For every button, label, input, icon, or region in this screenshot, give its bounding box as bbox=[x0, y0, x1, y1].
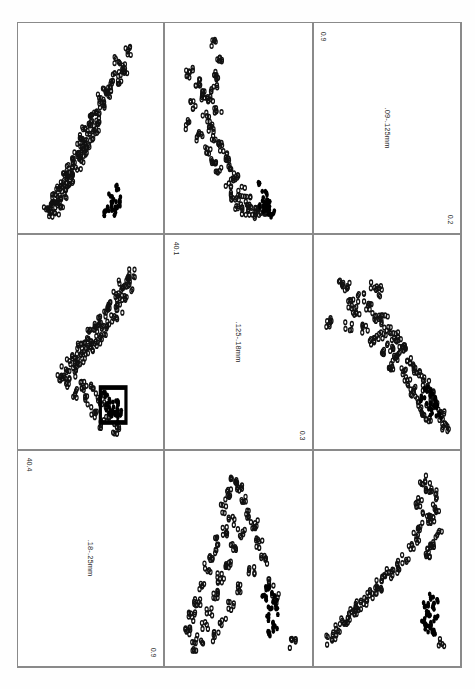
data-point-open bbox=[60, 189, 63, 193]
data-point-open bbox=[50, 214, 53, 218]
data-point-open bbox=[67, 375, 70, 380]
data-point-filled bbox=[261, 203, 265, 208]
data-point-open bbox=[396, 330, 399, 335]
data-point-filled bbox=[256, 179, 260, 184]
data-point-filled bbox=[266, 611, 270, 616]
data-point-open bbox=[221, 525, 224, 530]
panel-r1c0 bbox=[17, 234, 165, 451]
data-point-open bbox=[127, 267, 130, 272]
data-point-open bbox=[109, 88, 112, 92]
data-point-open bbox=[216, 571, 219, 576]
data-point-open bbox=[57, 212, 60, 216]
scatter-layer bbox=[165, 23, 313, 234]
data-point-filled bbox=[428, 612, 432, 617]
data-point-open bbox=[409, 387, 412, 392]
panel-diag-v3: 0.9.09-.125mm0.2 bbox=[313, 22, 462, 235]
data-point-open bbox=[109, 313, 112, 318]
data-point-open bbox=[205, 607, 208, 612]
data-point-open bbox=[360, 330, 363, 335]
data-point-filled bbox=[271, 619, 275, 624]
data-point-filled bbox=[428, 393, 432, 398]
data-point-open bbox=[243, 185, 246, 189]
data-point-open bbox=[96, 92, 99, 96]
data-point-open bbox=[409, 546, 412, 551]
data-point-filled bbox=[264, 597, 268, 602]
axis-min-label: 0.9 bbox=[151, 648, 158, 658]
data-point-open bbox=[86, 402, 89, 407]
data-point-open bbox=[387, 569, 390, 574]
data-point-open bbox=[56, 372, 59, 377]
data-point-open bbox=[420, 373, 423, 378]
data-point-filled bbox=[264, 587, 268, 592]
data-point-open bbox=[219, 109, 222, 113]
data-point-open bbox=[191, 106, 194, 110]
data-point-open bbox=[120, 310, 123, 315]
data-point-open bbox=[194, 83, 197, 87]
data-point-filled bbox=[428, 619, 432, 624]
data-point-filled bbox=[430, 604, 434, 609]
data-point-open bbox=[94, 333, 97, 338]
data-point-open bbox=[390, 337, 393, 342]
data-point-open bbox=[352, 612, 355, 617]
data-point-filled bbox=[436, 599, 440, 604]
data-point-open bbox=[403, 378, 406, 383]
data-point-open bbox=[205, 119, 208, 123]
data-point-open bbox=[412, 530, 415, 535]
data-point-filled bbox=[115, 397, 119, 402]
data-point-open bbox=[400, 366, 403, 371]
data-point-filled bbox=[266, 629, 270, 634]
data-point-open bbox=[79, 166, 82, 170]
axis-min-label: 0.3 bbox=[300, 431, 307, 441]
axis-min-label: 0.2 bbox=[448, 215, 455, 225]
data-point-open bbox=[431, 515, 434, 520]
data-point-open bbox=[59, 180, 62, 184]
data-point-open bbox=[195, 138, 198, 142]
data-point-open bbox=[97, 115, 100, 119]
data-point-open bbox=[356, 299, 359, 304]
axis-max-label: 40.1 bbox=[173, 241, 180, 255]
data-point-filled bbox=[424, 611, 428, 616]
data-point-open bbox=[209, 606, 212, 611]
data-point-open bbox=[364, 602, 367, 607]
data-point-open bbox=[400, 552, 403, 557]
data-point-filled bbox=[422, 395, 426, 400]
data-point-open bbox=[390, 573, 393, 578]
data-point-open bbox=[225, 151, 228, 155]
data-point-open bbox=[65, 384, 68, 389]
data-point-filled bbox=[434, 404, 438, 409]
data-point-open bbox=[65, 357, 68, 362]
data-point-filled bbox=[439, 415, 443, 420]
data-point-open bbox=[220, 618, 223, 623]
data-point-open bbox=[84, 383, 87, 388]
data-point-open bbox=[214, 547, 217, 552]
data-point-filled bbox=[117, 197, 121, 202]
data-point-filled bbox=[426, 629, 430, 634]
data-point-open bbox=[215, 595, 218, 600]
data-point-open bbox=[198, 597, 201, 602]
data-point-open bbox=[347, 280, 350, 285]
data-point-open bbox=[79, 158, 82, 162]
data-point-filled bbox=[113, 412, 117, 417]
data-point-open bbox=[237, 197, 240, 201]
data-point-open bbox=[386, 314, 389, 319]
data-point-open bbox=[204, 110, 207, 114]
data-point-filled bbox=[260, 188, 264, 193]
scatter-layer bbox=[314, 451, 461, 667]
data-point-open bbox=[200, 620, 203, 625]
data-point-filled bbox=[116, 186, 120, 191]
data-point-open bbox=[431, 502, 434, 507]
data-point-open bbox=[380, 578, 383, 583]
data-point-open bbox=[86, 351, 89, 356]
data-point-filled bbox=[424, 400, 428, 405]
data-point-open bbox=[424, 473, 427, 478]
data-point-filled bbox=[112, 212, 116, 217]
data-point-open bbox=[60, 364, 63, 369]
data-point-open bbox=[232, 171, 235, 175]
data-point-open bbox=[420, 497, 423, 502]
data-point-open bbox=[380, 287, 383, 292]
variable-label: .18-.25mm bbox=[86, 540, 95, 577]
data-point-open bbox=[211, 133, 214, 137]
data-point-open bbox=[115, 431, 118, 436]
panel-diag-v2: 40.1.125-.18mm0.3 bbox=[164, 234, 314, 451]
data-point-open bbox=[438, 636, 441, 641]
